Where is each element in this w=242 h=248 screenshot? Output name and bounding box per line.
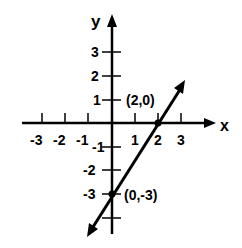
x-tick-label: 1 [131,132,139,148]
y-tick-label: 1 [93,92,101,108]
y-tick-label: 3 [91,44,99,60]
coordinate-plane: y x -3 -2 -1 1 2 3 3 2 1 -1 -2 -3 (2,0) … [0,0,242,248]
y-axis-label: y [91,12,101,31]
y-tick-label: -1 [92,139,105,155]
x-tick-label: 3 [177,132,185,148]
y-tick-label: -2 [83,162,96,178]
y-tick-label: -3 [83,186,96,202]
plotted-line [93,88,181,227]
x-axis-label: x [220,117,229,134]
y-intercept-label: (0,-3) [124,187,157,203]
x-tick-label: -2 [53,132,66,148]
x-tick-label: -3 [30,132,43,148]
x-intercept-label: (2,0) [126,92,155,108]
y-axis-arrow-icon [107,14,117,27]
y-tick-label: 2 [91,68,99,84]
y-intercept-point [109,191,116,198]
x-tick-label: 2 [154,132,162,148]
x-axis-arrow-icon [204,118,216,128]
x-tick-label: -1 [76,132,89,148]
x-intercept-point [155,120,162,127]
